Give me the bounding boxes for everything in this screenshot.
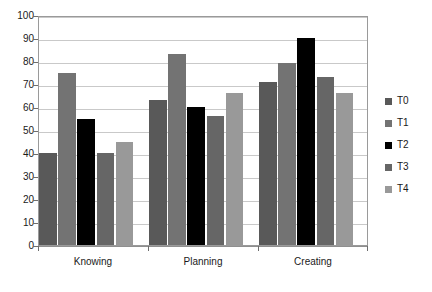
legend-item-label: T1 xyxy=(397,118,409,128)
bar-t1-planning xyxy=(168,54,186,245)
bar-chart: 0102030405060708090100 KnowingPlanningCr… xyxy=(0,0,432,292)
y-axis-tick-label: 70 xyxy=(0,80,34,90)
y-axis-tick-label: 50 xyxy=(0,126,34,136)
y-axis-tick-label: 90 xyxy=(0,34,34,44)
legend-item-t0[interactable]: T0 xyxy=(385,90,430,112)
plot-area xyxy=(38,16,368,246)
bar-t2-knowing xyxy=(77,119,95,246)
bar-t0-planning xyxy=(149,100,167,245)
bar-t0-creating xyxy=(259,82,277,245)
bar-t2-planning xyxy=(187,107,205,245)
legend-item-label: T3 xyxy=(397,162,409,172)
legend-item-label: T0 xyxy=(397,96,409,106)
y-axis-tick-label: 30 xyxy=(0,172,34,182)
legend-item-t4[interactable]: T4 xyxy=(385,178,430,200)
legend-swatch-icon xyxy=(385,142,392,149)
legend-item-t1[interactable]: T1 xyxy=(385,112,430,134)
bar-group-creating xyxy=(259,17,369,245)
legend-swatch-icon xyxy=(385,120,392,127)
bar-t2-creating xyxy=(297,38,315,245)
legend-swatch-icon xyxy=(385,186,392,193)
legend-swatch-icon xyxy=(385,164,392,171)
bar-t4-creating xyxy=(336,93,354,245)
bars-layer xyxy=(39,17,367,245)
x-axis-tick-mark xyxy=(148,246,149,251)
legend-item-label: T4 xyxy=(397,184,409,194)
bar-group-planning xyxy=(149,17,259,245)
legend-item-t3[interactable]: T3 xyxy=(385,156,430,178)
bar-t0-knowing xyxy=(39,153,57,245)
y-axis-tick-labels: 0102030405060708090100 xyxy=(0,0,34,292)
x-axis-tick-mark xyxy=(38,246,39,251)
y-axis-tick-label: 10 xyxy=(0,218,34,228)
x-axis-tick-mark xyxy=(367,246,368,251)
bar-t1-creating xyxy=(278,63,296,245)
bar-t4-planning xyxy=(226,93,244,245)
bar-t3-planning xyxy=(207,116,225,245)
y-axis-tick-label: 80 xyxy=(0,57,34,67)
legend-swatch-icon xyxy=(385,98,392,105)
bar-t1-knowing xyxy=(58,73,76,246)
y-axis-tick-label: 40 xyxy=(0,149,34,159)
legend-item-label: T2 xyxy=(397,140,409,150)
y-axis-tick-label: 0 xyxy=(0,241,34,251)
y-axis-tick-label: 100 xyxy=(0,11,34,21)
bar-t4-knowing xyxy=(116,142,134,246)
legend-item-t2[interactable]: T2 xyxy=(385,134,430,156)
x-axis-category-label: Planning xyxy=(148,256,258,268)
y-axis-tick-label: 60 xyxy=(0,103,34,113)
chart-legend: T0T1T2T3T4 xyxy=(385,90,430,200)
y-axis-tick-label: 20 xyxy=(0,195,34,205)
x-axis-tick-marks xyxy=(38,246,368,251)
x-axis-category-label: Knowing xyxy=(38,256,148,268)
x-axis-category-label: Creating xyxy=(258,256,368,268)
bar-t3-creating xyxy=(317,77,335,245)
x-axis-category-labels: KnowingPlanningCreating xyxy=(38,256,368,274)
bar-group-knowing xyxy=(39,17,149,245)
bar-t3-knowing xyxy=(97,153,115,245)
x-axis-tick-mark xyxy=(258,246,259,251)
